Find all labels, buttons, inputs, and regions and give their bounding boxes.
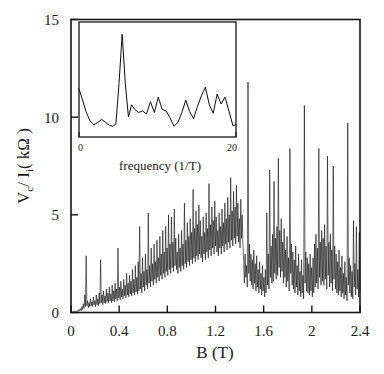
x-tick-label: 0.4 bbox=[110, 323, 129, 339]
y-tick-label: 5 bbox=[52, 207, 60, 223]
x-tick-label: 2.4 bbox=[351, 323, 370, 339]
y-title-v: V bbox=[14, 191, 33, 204]
inset-x-tick-label: 0 bbox=[78, 142, 83, 153]
x-axis-title: B (T) bbox=[196, 343, 233, 362]
x-tick-label: 1.6 bbox=[254, 323, 273, 339]
y-axis-title-text: Vc/ Ii( kΩ ) bbox=[14, 128, 35, 204]
figure-root: 051015 00.40.81.21.622.4 B (T) Vc/ Ii( k… bbox=[0, 0, 384, 374]
x-tick-label: 0 bbox=[67, 323, 75, 339]
magnetoresistance-figure: 051015 00.40.81.21.622.4 B (T) Vc/ Ii( k… bbox=[0, 0, 384, 374]
y-title-unit-close: ) bbox=[14, 128, 33, 138]
x-tick-label: 1.2 bbox=[206, 323, 225, 339]
y-title-slash: / I bbox=[14, 172, 33, 187]
x-tick-label: 0.8 bbox=[158, 323, 177, 339]
inset-x-axis-title: frequency (1/T) bbox=[119, 158, 201, 173]
y-tick-label: 15 bbox=[44, 12, 59, 28]
y-axis-title: Vc/ Ii( kΩ ) bbox=[14, 128, 35, 204]
x-tick-label: 2 bbox=[308, 323, 316, 339]
inset-x-tick-label: 20 bbox=[227, 142, 237, 153]
y-title-unit-open: ( k bbox=[14, 150, 33, 169]
y-title-omega: Ω bbox=[14, 138, 33, 151]
y-tick-label: 0 bbox=[52, 305, 60, 321]
y-tick-label: 10 bbox=[44, 110, 59, 126]
